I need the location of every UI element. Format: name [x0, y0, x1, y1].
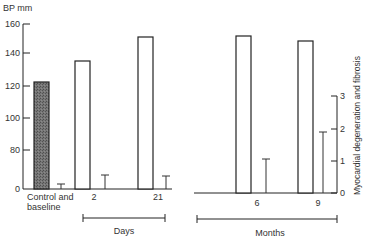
whisker-month-9	[319, 132, 327, 193]
whisker-day-2	[101, 175, 109, 189]
months-bracket	[197, 215, 337, 223]
right-tick-0: 0	[340, 188, 345, 198]
tick-0: 0	[15, 184, 20, 194]
label-month-6: 6	[254, 198, 259, 208]
label-control-line1: Control and	[27, 192, 74, 202]
label-day-21: 21	[153, 192, 163, 202]
label-day-2: 2	[91, 192, 96, 202]
left-y-axis: BP mm 160 140 120 100 80 0	[3, 3, 32, 194]
right-tick-1: 1	[340, 156, 345, 166]
label-months: Months	[255, 228, 285, 238]
tick-80: 80	[10, 145, 20, 155]
days-bracket	[83, 214, 165, 222]
tick-120: 120	[5, 81, 20, 91]
whisker-control	[57, 184, 65, 189]
tick-140: 140	[5, 48, 20, 58]
bp-myocardial-chart: BP mm 160 140 120 100 80 0 Control and b…	[0, 0, 366, 243]
tick-100: 100	[5, 113, 20, 123]
label-month-9: 9	[315, 198, 320, 208]
tick-160: 160	[5, 19, 20, 29]
bar-control	[34, 82, 49, 189]
left-axis-title: BP mm	[3, 3, 32, 13]
right-y-axis: 3 2 1 0 Myocardial degeneration and fibr…	[331, 56, 362, 198]
whisker-day-21	[162, 176, 170, 189]
bar-month-9	[298, 41, 313, 193]
bar-day-21	[138, 37, 153, 189]
right-tick-2: 2	[340, 124, 345, 134]
whisker-month-6	[262, 159, 270, 193]
label-days: Days	[114, 226, 135, 236]
bar-month-6	[236, 36, 251, 193]
bar-day-2	[75, 61, 90, 189]
label-control-line2: baseline	[27, 202, 61, 212]
right-axis-title: Myocardial degeneration and fibrosis	[352, 56, 362, 195]
right-tick-3: 3	[340, 91, 345, 101]
